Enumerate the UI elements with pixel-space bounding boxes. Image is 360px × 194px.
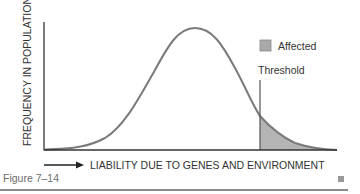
figure-caption: Figure 7–14 (3, 172, 59, 184)
caption-rule (0, 189, 348, 191)
x-axis-label: LIABILITY DUE TO GENES AND ENVIRONMENT (90, 159, 325, 171)
legend-affected-label: Affected (278, 40, 316, 52)
end-mark-square-icon (338, 176, 344, 182)
y-axis-label: FREQUENCY IN POPULATION (21, 0, 33, 146)
threshold-label: Threshold (258, 64, 305, 76)
arrow-right-icon (44, 162, 84, 169)
legend-affected-swatch (260, 40, 271, 51)
liability-threshold-diagram: FREQUENCY IN POPULATION Affected Thresho… (0, 0, 360, 194)
